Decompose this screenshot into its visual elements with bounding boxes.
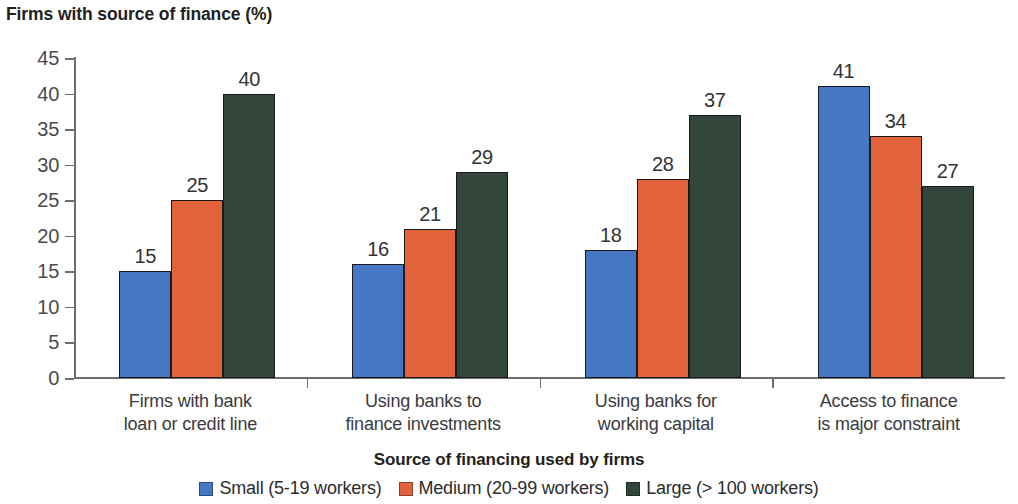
bar: 27 (922, 186, 974, 378)
y-axis-tick-mark (65, 165, 74, 167)
x-axis-category-label: Access to financeis major constraint (772, 390, 1005, 436)
bar: 34 (870, 136, 922, 378)
bar: 25 (171, 200, 223, 378)
legend-item: Medium (20-99 workers) (399, 478, 610, 499)
category-label-line: Firms with bank (74, 390, 307, 413)
legend-swatch-icon (199, 482, 213, 496)
legend-label: Small (5-19 workers) (219, 478, 381, 499)
chart-title: Firms with source of finance (%) (6, 4, 272, 25)
bar: 29 (456, 172, 508, 378)
bar: 21 (404, 229, 456, 378)
category-label-line: Access to finance (772, 390, 1005, 413)
legend-swatch-icon (626, 482, 640, 496)
bar-chart-figure: Firms with source of finance (%) 0510152… (0, 0, 1018, 504)
y-axis-tick-mark (65, 378, 74, 380)
bar-value-label: 18 (600, 224, 622, 247)
category-label-line: Using banks for (540, 390, 773, 413)
y-axis-tick-label: 40 (37, 82, 59, 105)
bar-value-label: 40 (239, 68, 261, 91)
y-axis-tick-mark (65, 200, 74, 202)
y-axis-tick-label: 45 (37, 47, 59, 70)
y-axis-tick-label: 15 (37, 260, 59, 283)
y-axis-tick-label: 20 (37, 224, 59, 247)
x-axis-category-label: Using banks tofinance investments (307, 390, 540, 436)
category-label-line: loan or credit line (74, 413, 307, 436)
legend-label: Medium (20-99 workers) (419, 478, 610, 499)
bar: 37 (689, 115, 741, 378)
y-axis-tick-mark (65, 236, 74, 238)
legend-item: Small (5-19 workers) (199, 478, 381, 499)
y-axis-tick-mark (65, 94, 74, 96)
y-axis-tick-mark (65, 307, 74, 309)
bar-value-label: 37 (704, 89, 726, 112)
x-axis-separator-tick (540, 379, 542, 388)
category-label-line: finance investments (307, 413, 540, 436)
y-axis-tick-label: 25 (37, 189, 59, 212)
bar: 18 (585, 250, 637, 378)
legend-swatch-icon (399, 482, 413, 496)
bar-value-label: 28 (652, 153, 674, 176)
category-label-line: is major constraint (772, 413, 1005, 436)
y-axis-tick-mark (65, 129, 74, 131)
x-axis-category-label: Using banks forworking capital (540, 390, 773, 436)
y-axis-tick-label: 5 (48, 331, 59, 354)
bar: 40 (223, 94, 275, 378)
x-axis-category-label: Firms with bankloan or credit line (74, 390, 307, 436)
y-axis-tick-mark (65, 271, 74, 273)
bar-value-label: 16 (367, 238, 389, 261)
bar-value-label: 29 (471, 146, 493, 169)
y-axis-tick-label: 0 (48, 367, 59, 390)
bar-value-label: 27 (937, 160, 959, 183)
bar-value-label: 25 (187, 174, 209, 197)
bar-value-label: 21 (419, 203, 441, 226)
plot-area: 051015202530354045 152540162129182837413… (74, 58, 1005, 378)
x-axis-separator-tick (772, 379, 774, 388)
category-label-line: working capital (540, 413, 773, 436)
bar-value-label: 15 (135, 245, 157, 268)
bar: 28 (637, 179, 689, 378)
bar-value-label: 41 (833, 60, 855, 83)
legend-item: Large (> 100 workers) (626, 478, 818, 499)
chart-legend: Small (5-19 workers)Medium (20-99 worker… (0, 478, 1018, 499)
legend-label: Large (> 100 workers) (646, 478, 818, 499)
y-axis-tick-label: 35 (37, 118, 59, 141)
y-axis-tick-mark (65, 342, 74, 344)
x-axis-separator-tick (307, 379, 309, 388)
y-axis-tick-mark (65, 58, 74, 60)
bar: 16 (352, 264, 404, 378)
bar: 15 (119, 271, 171, 378)
y-axis-tick-label: 30 (37, 153, 59, 176)
bar: 41 (818, 86, 870, 378)
y-axis-tick-label: 10 (37, 295, 59, 318)
category-label-line: Using banks to (307, 390, 540, 413)
x-axis-title: Source of financing used by firms (0, 450, 1018, 470)
bar-value-label: 34 (885, 110, 907, 133)
